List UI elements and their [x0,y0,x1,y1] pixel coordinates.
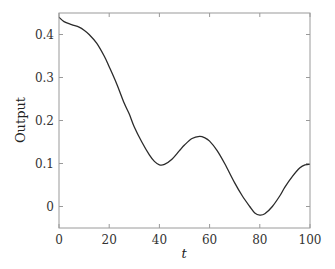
axes-frame [59,13,310,228]
series-line [59,17,310,215]
x-tick-label: 0 [55,233,63,247]
y-axis-ticks: 00.10.20.30.4 [35,28,310,214]
line-chart: 020406080100 00.10.20.30.4 t Output [0,0,335,269]
x-axis-label: t [181,246,187,261]
y-tick-label: 0 [46,200,54,214]
y-tick-label: 0.2 [35,114,54,128]
y-tick-label: 0.3 [35,71,54,85]
x-tick-label: 100 [299,233,322,247]
y-axis-label: Output [13,96,28,143]
x-tick-label: 20 [102,233,117,247]
x-axis-ticks: 020406080100 [55,13,321,247]
y-tick-label: 0.1 [35,157,54,171]
x-tick-label: 80 [252,233,267,247]
plot-area [59,17,310,215]
x-tick-label: 60 [202,233,217,247]
y-tick-label: 0.4 [35,28,54,42]
x-tick-label: 40 [152,233,167,247]
